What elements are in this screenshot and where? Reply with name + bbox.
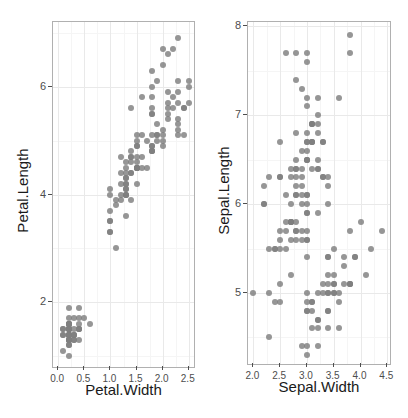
- data-point: [293, 183, 299, 189]
- data-point: [160, 143, 166, 149]
- data-point: [261, 183, 267, 189]
- data-point: [347, 50, 353, 56]
- data-point: [154, 138, 160, 144]
- y-tick-label: 2: [28, 295, 46, 307]
- x-tick-label: 3.5: [326, 370, 340, 381]
- data-point: [186, 84, 192, 90]
- x-tick-label: 3.0: [299, 370, 313, 381]
- grid-major-horizontal: [248, 204, 390, 205]
- data-point: [299, 228, 305, 234]
- y-tick-label: 8: [223, 19, 241, 31]
- data-point: [170, 105, 176, 111]
- data-point: [304, 290, 310, 296]
- data-point: [336, 299, 342, 305]
- data-point: [304, 50, 310, 56]
- data-point: [277, 139, 283, 145]
- data-point: [107, 192, 113, 198]
- x-tick-label: 2.5: [272, 370, 286, 381]
- grid-major-horizontal: [248, 26, 390, 27]
- data-point: [87, 321, 93, 327]
- data-point: [175, 78, 181, 84]
- data-point: [315, 112, 321, 118]
- data-point: [123, 186, 129, 192]
- x-tick-label: 4.0: [353, 370, 367, 381]
- data-point: [160, 127, 166, 133]
- data-point: [71, 315, 77, 321]
- plot-area-sepal[interactable]: [247, 21, 391, 365]
- data-point: [299, 166, 305, 172]
- x-tick-mark: [57, 366, 58, 370]
- data-point: [304, 59, 310, 65]
- grid-minor-horizontal: [53, 248, 194, 249]
- data-point: [315, 317, 321, 323]
- y-tick-label: 4: [28, 188, 46, 200]
- data-point: [149, 148, 155, 154]
- y-tick-mark: [243, 114, 247, 115]
- data-point: [181, 132, 187, 138]
- data-point: [71, 337, 77, 343]
- data-point: [149, 94, 155, 100]
- y-tick-mark: [48, 301, 52, 302]
- data-point: [165, 89, 171, 95]
- y-axis-title-sepal-length: Sepal.Length: [215, 141, 232, 241]
- data-point: [293, 219, 299, 225]
- y-tick-mark: [243, 292, 247, 293]
- y-tick-label: 5: [223, 286, 241, 298]
- data-point: [250, 290, 256, 296]
- data-point: [363, 272, 369, 278]
- grid-major-vertical: [387, 22, 388, 364]
- data-point: [134, 138, 140, 144]
- x-tick-mark: [360, 363, 361, 367]
- data-point: [134, 181, 140, 187]
- data-point: [304, 103, 310, 109]
- data-point: [304, 237, 310, 243]
- data-point: [299, 86, 305, 92]
- data-point: [304, 352, 310, 358]
- grid-minor-vertical: [347, 22, 348, 364]
- data-point: [66, 337, 72, 343]
- y-tick-label: 7: [223, 108, 241, 120]
- data-point: [331, 281, 337, 287]
- data-point: [134, 143, 140, 149]
- data-point: [128, 159, 134, 165]
- x-tick-label: 1.5: [129, 373, 143, 384]
- data-point: [304, 210, 310, 216]
- data-point: [325, 174, 331, 180]
- data-point: [325, 201, 331, 207]
- grid-minor-horizontal: [248, 71, 390, 72]
- data-point: [336, 290, 342, 296]
- data-point: [113, 202, 119, 208]
- data-point: [315, 95, 321, 101]
- x-tick-label: 2.5: [181, 373, 195, 384]
- data-point: [341, 263, 347, 269]
- data-point: [315, 325, 321, 331]
- data-point: [315, 166, 321, 172]
- data-point: [181, 105, 187, 111]
- y-tick-label: 6: [223, 197, 241, 209]
- x-tick-mark: [306, 363, 307, 367]
- data-point: [293, 130, 299, 136]
- grid-minor-vertical: [320, 22, 321, 364]
- data-point: [154, 78, 160, 84]
- data-point: [315, 130, 321, 136]
- data-point: [266, 334, 272, 340]
- data-point: [304, 308, 310, 314]
- x-tick-mark: [386, 363, 387, 367]
- data-point: [128, 170, 134, 176]
- data-point: [123, 213, 129, 219]
- data-point: [139, 94, 145, 100]
- data-point: [277, 281, 283, 287]
- data-point: [315, 121, 321, 127]
- plot-area-petal[interactable]: [52, 21, 195, 368]
- data-point: [304, 201, 310, 207]
- x-tick-mark: [136, 366, 137, 370]
- data-point: [66, 342, 72, 348]
- data-point: [358, 219, 364, 225]
- grid-major-vertical: [253, 22, 254, 364]
- y-tick-mark: [243, 25, 247, 26]
- data-point: [165, 51, 171, 57]
- data-point: [293, 166, 299, 172]
- data-point: [283, 192, 289, 198]
- data-point: [293, 228, 299, 234]
- data-point: [266, 174, 272, 180]
